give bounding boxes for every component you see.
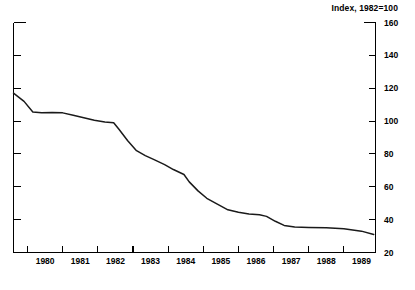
y-axis-tick-label: 140 xyxy=(384,50,398,60)
chart-figure: Index, 1982=100 16014012010080604020 198… xyxy=(0,0,415,290)
x-axis-tick-label: 1982 xyxy=(106,256,125,266)
x-axis-tick-label: 1989 xyxy=(352,256,371,266)
y-axis-tick-label: 20 xyxy=(384,248,393,258)
x-axis-tick-label: 1985 xyxy=(211,256,230,266)
chart-plot-area xyxy=(0,0,415,290)
y-axis-tick-label: 60 xyxy=(384,182,393,192)
y-axis-tick-label: 100 xyxy=(384,116,398,126)
x-axis-tick-label: 1986 xyxy=(247,256,266,266)
x-axis-tick-label: 1984 xyxy=(176,256,195,266)
y-axis-tick-label: 80 xyxy=(384,149,393,159)
x-axis-tick-label: 1983 xyxy=(141,256,160,266)
y-axis-tick-label: 160 xyxy=(384,18,398,28)
chart-tick-marks xyxy=(14,55,376,252)
y-axis-tick-label: 40 xyxy=(384,215,393,225)
x-axis-tick-label: 1987 xyxy=(282,256,301,266)
x-axis-tick-label: 1980 xyxy=(36,256,55,266)
chart-axes xyxy=(14,23,376,253)
x-axis-tick-label: 1988 xyxy=(317,256,336,266)
x-axis-tick-label: 1981 xyxy=(71,256,90,266)
chart-data-series xyxy=(14,93,374,234)
y-axis-tick-label: 120 xyxy=(384,83,398,93)
series-line-index xyxy=(14,93,374,234)
